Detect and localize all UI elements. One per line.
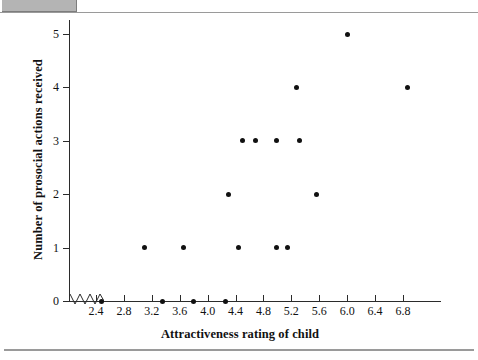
y-axis-line — [69, 20, 70, 301]
x-tick-label: 2.8 — [109, 305, 139, 317]
y-tick — [63, 301, 69, 302]
x-tick-label: 6.8 — [388, 305, 418, 317]
x-tick-label: 2.4 — [81, 305, 111, 317]
data-point — [405, 85, 410, 90]
y-tick-label: 2 — [45, 188, 59, 200]
data-point — [274, 138, 279, 143]
data-point — [294, 85, 299, 90]
y-tick-label: 5 — [45, 28, 59, 40]
x-tick — [208, 295, 209, 301]
x-tick-label: 5.6 — [304, 305, 334, 317]
x-tick — [347, 295, 348, 301]
x-tick-label: 6.4 — [360, 305, 390, 317]
y-tick-label: 4 — [45, 81, 59, 93]
x-tick-label: 6.0 — [332, 305, 362, 317]
x-tick-label: 4.0 — [193, 305, 223, 317]
x-tick — [291, 295, 292, 301]
data-point — [142, 245, 147, 250]
data-point — [240, 138, 245, 143]
x-tick — [263, 295, 264, 301]
y-tick — [63, 34, 69, 35]
data-point — [160, 299, 165, 304]
y-tick — [63, 194, 69, 195]
data-point — [345, 32, 350, 37]
data-point — [181, 245, 186, 250]
page-bottom-rule — [4, 349, 474, 351]
y-tick — [63, 87, 69, 88]
plot-area: 012345 2.42.83.23.64.04.44.85.25.66.06.4… — [0, 14, 478, 346]
x-axis-line — [69, 301, 441, 302]
data-point — [274, 245, 279, 250]
page-top-rule — [0, 12, 478, 13]
x-tick-label: 3.2 — [137, 305, 167, 317]
data-point — [253, 138, 258, 143]
y-tick — [63, 141, 69, 142]
data-point — [285, 245, 290, 250]
scatter-plot-figure: Number of prosocial actions received Att… — [0, 14, 478, 346]
x-tick — [124, 295, 125, 301]
page-corner-tab — [2, 0, 77, 12]
y-tick-label: 3 — [45, 135, 59, 147]
x-tick — [319, 295, 320, 301]
x-tick — [375, 295, 376, 301]
x-tick — [236, 295, 237, 301]
data-point — [99, 299, 104, 304]
data-point — [223, 299, 228, 304]
data-point — [314, 192, 319, 197]
x-tick-label: 5.2 — [276, 305, 306, 317]
x-tick — [96, 295, 97, 301]
x-tick-label: 4.8 — [248, 305, 278, 317]
x-tick-label: 4.4 — [221, 305, 251, 317]
data-point — [236, 245, 241, 250]
x-tick — [152, 295, 153, 301]
y-tick-label: 0 — [45, 295, 59, 307]
x-tick-label: 3.6 — [165, 305, 195, 317]
data-point — [297, 138, 302, 143]
x-tick — [403, 295, 404, 301]
data-point — [191, 299, 196, 304]
x-tick — [180, 295, 181, 301]
y-tick — [63, 248, 69, 249]
data-point — [226, 192, 231, 197]
y-tick-label: 1 — [45, 242, 59, 254]
